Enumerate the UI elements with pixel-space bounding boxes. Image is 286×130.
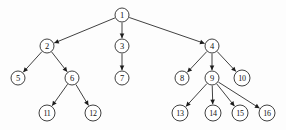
tree-node[interactable]: 15 (232, 105, 248, 121)
arrowhead-icon (120, 66, 125, 71)
node-label: 10 (238, 74, 246, 83)
arrowhead-icon (120, 34, 125, 39)
tree-node[interactable]: 16 (259, 105, 275, 121)
tree-node[interactable]: 4 (205, 39, 219, 53)
arrowhead-icon (210, 100, 215, 105)
tree-node[interactable]: 1 (115, 8, 129, 22)
node-label: 5 (16, 73, 20, 83)
node-label: 15 (236, 109, 244, 118)
arrowhead-icon (52, 101, 57, 106)
arrowhead-icon (210, 66, 215, 71)
tree-edge (129, 17, 204, 44)
node-label: 1 (120, 10, 124, 20)
tree-edge (54, 18, 115, 43)
tree-edge (210, 54, 215, 71)
node-label: 3 (120, 41, 124, 51)
tree-edge (52, 84, 67, 106)
tree-node[interactable]: 14 (205, 105, 221, 121)
edges-layer (23, 17, 259, 108)
tree-node[interactable]: 6 (65, 71, 79, 85)
node-label: 6 (70, 73, 74, 83)
tree-diagram-canvas: 12345678910111213141516 (0, 0, 286, 130)
arrowhead-icon (200, 40, 205, 44)
tree-edge (76, 85, 89, 106)
arrowhead-icon (63, 67, 68, 72)
tree-edge (217, 52, 236, 72)
tree-edge (52, 52, 68, 72)
tree-edge (120, 23, 125, 39)
node-label: 13 (176, 109, 184, 118)
tree-node[interactable]: 9 (205, 71, 219, 85)
node-label: 12 (89, 109, 97, 118)
node-label: 16 (263, 109, 271, 118)
arrowhead-icon (254, 104, 259, 108)
node-label: 7 (120, 73, 124, 83)
tree-node[interactable]: 8 (175, 71, 189, 85)
nodes-layer: 12345678910111213141516 (11, 8, 275, 121)
tree-node[interactable]: 11 (39, 105, 55, 121)
node-label: 9 (210, 73, 214, 83)
tree-node[interactable]: 13 (172, 105, 188, 121)
tree-edge (217, 84, 235, 106)
tree-node[interactable]: 5 (11, 71, 25, 85)
tree-edge (23, 52, 42, 73)
tree-node[interactable]: 10 (234, 70, 250, 86)
node-label: 11 (43, 109, 50, 118)
tree-edge (186, 84, 207, 107)
tree-node[interactable]: 12 (85, 105, 101, 121)
node-label: 2 (45, 41, 49, 51)
node-label: 8 (180, 73, 184, 83)
node-label: 14 (209, 109, 217, 118)
tree-edge (218, 82, 259, 108)
tree-node[interactable]: 2 (40, 39, 54, 53)
tree-diagram: 12345678910111213141516 (0, 0, 286, 130)
tree-node[interactable]: 3 (115, 39, 129, 53)
tree-edge (210, 86, 215, 105)
tree-node[interactable]: 7 (115, 71, 129, 85)
tree-edge (187, 52, 206, 73)
tree-edge (120, 54, 125, 71)
